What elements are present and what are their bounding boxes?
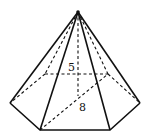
apex-to-right bbox=[78, 12, 140, 103]
segment-label: 8 bbox=[79, 101, 86, 114]
apex-point bbox=[76, 10, 80, 14]
hidden-edges bbox=[10, 12, 140, 130]
apex-to-left bbox=[10, 12, 78, 103]
front-base-edges bbox=[10, 103, 140, 130]
visible-edges bbox=[10, 12, 140, 130]
hexagonal-pyramid-diagram: 5 8 bbox=[0, 0, 152, 140]
height-label: 5 bbox=[68, 61, 75, 74]
